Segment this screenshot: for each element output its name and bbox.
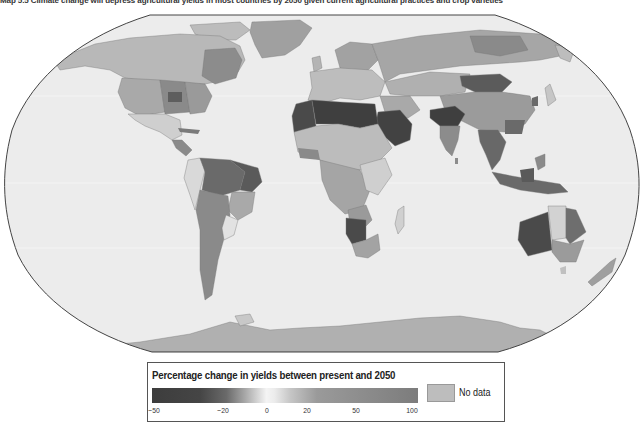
no-data-swatch xyxy=(427,384,455,402)
legend-tick: 100 xyxy=(406,406,417,415)
legend-tick: −50 xyxy=(148,406,160,415)
legend-gradient-bar xyxy=(152,388,418,403)
map-title: Map 5.5 Climate change will depress agri… xyxy=(0,0,643,7)
no-data-label: No data xyxy=(459,387,491,398)
legend-tick: 0 xyxy=(265,406,269,415)
legend-tick: 20 xyxy=(303,406,311,415)
world-map xyxy=(0,10,643,356)
legend-tick: 50 xyxy=(352,406,360,415)
legend-title: Percentage change in yields between pres… xyxy=(152,369,395,381)
region-north-africa xyxy=(312,100,378,128)
legend: Percentage change in yields between pres… xyxy=(147,362,505,422)
legend-tick: −20 xyxy=(217,406,229,415)
